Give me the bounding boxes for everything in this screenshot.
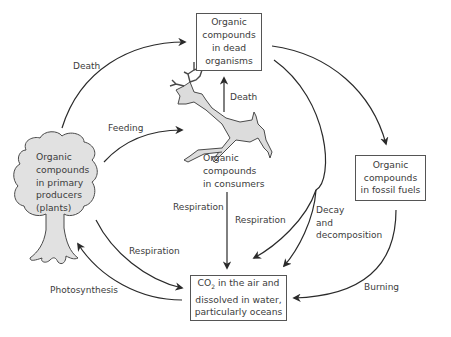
arrow-producers-consumers [104,130,182,162]
node-text: Organic [36,151,89,164]
label-feeding: Feeding [108,122,143,134]
node-text: compounds [361,172,421,185]
node-text: in primary [36,177,89,190]
node-text: producers [36,189,89,202]
node-text: (plants) [36,202,89,215]
arrow-dead-fossil [272,46,386,144]
node-text: Organic [361,159,421,172]
node-dead-organisms: Organic compounds in dead organisms [196,13,262,71]
node-text: in consumers [203,178,265,191]
label-respiration-plants: Respiration [129,245,180,257]
node-text: compounds [36,164,89,177]
label-respiration-consumer: Respiration [173,201,224,213]
node-text: organisms [202,55,255,68]
label-decay: Decay and decomposition [316,204,382,242]
label-decay-line: decomposition [316,229,382,242]
node-text: in fossil fuels [361,184,421,197]
node-text: in dead [202,42,255,55]
node-text: dissolved in water, [195,294,283,307]
node-text: particularly oceans [195,306,283,319]
node-producers: Organic compounds in primary producers (… [36,151,89,215]
node-co2: CO2 in the air and dissolved in water, p… [190,275,287,321]
label-burning: Burning [364,281,399,293]
arrow-dead-co2-resp [254,60,326,258]
label-decay-line: Decay [316,204,382,217]
node-fossil-fuels: Organic compounds in fossil fuels [355,155,426,201]
deer-icon [170,60,272,162]
node-consumers: Organic compounds in consumers [203,152,265,190]
node-text: Organic [203,152,265,165]
label-death-consumer: Death [230,91,257,103]
label-photosynthesis: Photosynthesis [50,284,118,296]
arrow-producers-dead [62,42,185,128]
node-text: compounds [202,29,255,42]
label-death-top: Death [73,60,100,72]
label-decay-line: and [316,217,382,230]
node-text: compounds [203,165,265,178]
label-respiration-dead: Respiration [235,214,286,226]
node-text: CO2 in the air and [195,277,283,294]
node-text: Organic [202,16,255,29]
